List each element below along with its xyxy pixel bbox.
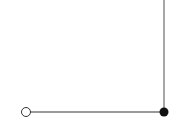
open-circle-start-node xyxy=(22,108,31,117)
diagram-canvas xyxy=(0,0,187,140)
connector-diagram xyxy=(0,0,187,140)
filled-circle-corner-node xyxy=(160,108,169,117)
